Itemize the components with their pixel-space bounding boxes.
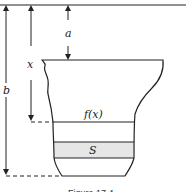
b-label: b xyxy=(3,84,10,97)
a-label: a xyxy=(65,27,72,40)
figure-caption: Figure 17.4 xyxy=(68,188,114,192)
volume-slice-diagram: b x a f(x) S Figure 17.4 xyxy=(0,0,186,192)
x-label: x xyxy=(27,58,34,71)
fx-label: f(x) xyxy=(83,108,103,121)
s-label: S xyxy=(89,144,97,157)
